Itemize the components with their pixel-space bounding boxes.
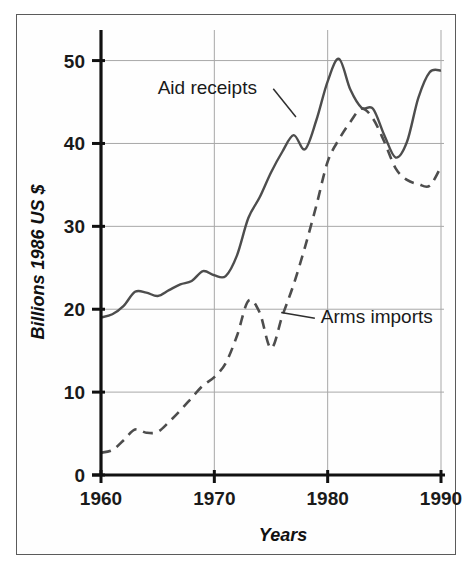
- arms-imports-annotation-leader-line: [281, 313, 315, 319]
- y-tick-label: 20: [64, 299, 85, 320]
- y-tick-label: 0: [74, 465, 85, 486]
- aid-receipts-annotation-leader-line: [273, 89, 296, 117]
- y-tick-label: 40: [64, 133, 85, 154]
- x-tick-label: 1960: [80, 488, 122, 509]
- series-paths: [101, 59, 441, 453]
- series-line-arms-imports: [101, 109, 441, 453]
- x-tick-label: 1980: [307, 488, 349, 509]
- series-line-aid-receipts: [101, 59, 441, 318]
- aid-receipts-annotation-text: Aid receipts: [158, 77, 257, 98]
- figure-container: 010203040501960197019801990 Aid receipts…: [0, 0, 474, 573]
- y-tick-label: 10: [64, 382, 85, 403]
- x-tick-label: 1970: [193, 488, 235, 509]
- arms-imports-annotation-text: Arms imports: [321, 306, 433, 327]
- gridlines: [101, 30, 444, 475]
- annotations: Aid receiptsArms imports: [158, 77, 433, 328]
- y-tick-label: 50: [64, 51, 85, 72]
- x-tick-label: 1990: [420, 488, 462, 509]
- y-axis-title: Billions 1986 US $: [28, 183, 48, 339]
- axes: [92, 30, 445, 483]
- y-tick-label: 30: [64, 216, 85, 237]
- x-axis-title: Years: [259, 525, 307, 545]
- line-chart: 010203040501960197019801990 Aid receipts…: [0, 0, 474, 573]
